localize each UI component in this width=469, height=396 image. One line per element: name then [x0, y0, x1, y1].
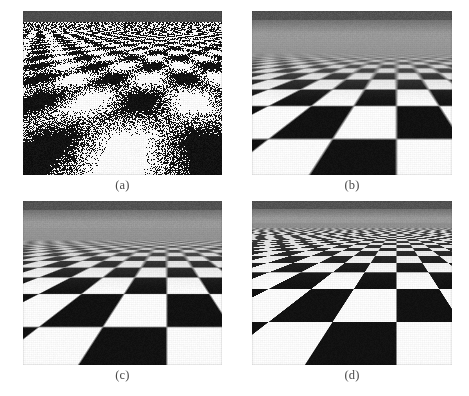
panel-caption-b: (b)	[252, 178, 452, 193]
checkerboard-canvas-d	[252, 201, 452, 365]
panel-caption-d: (d)	[252, 368, 452, 383]
figure-panel-a: (a)	[23, 11, 222, 201]
checkerboard-render-d	[252, 201, 452, 365]
figure-panel-b: (b)	[252, 11, 452, 201]
panel-caption-c: (c)	[23, 368, 222, 383]
checkerboard-render-c	[23, 201, 222, 365]
checkerboard-canvas-b	[252, 11, 452, 175]
checkerboard-render-a	[23, 11, 222, 175]
checkerboard-render-b	[252, 11, 452, 175]
figure-panel-grid: (a)(b)(c)(d)	[0, 0, 469, 396]
figure-panel-d: (d)	[252, 201, 452, 391]
checkerboard-canvas-c	[23, 201, 222, 365]
figure-panel-c: (c)	[23, 201, 222, 391]
checkerboard-canvas-a	[23, 11, 222, 175]
panel-caption-a: (a)	[23, 178, 222, 193]
